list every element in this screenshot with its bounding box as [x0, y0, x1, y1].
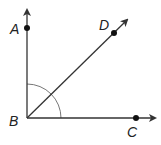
label-b: B — [9, 113, 18, 129]
label-c: C — [127, 124, 138, 140]
point-d — [111, 30, 117, 36]
label-a: A — [9, 21, 19, 37]
angle-diagram: A D B C — [0, 0, 161, 145]
point-c — [133, 115, 139, 121]
label-d: D — [99, 17, 109, 33]
point-a — [24, 25, 30, 31]
